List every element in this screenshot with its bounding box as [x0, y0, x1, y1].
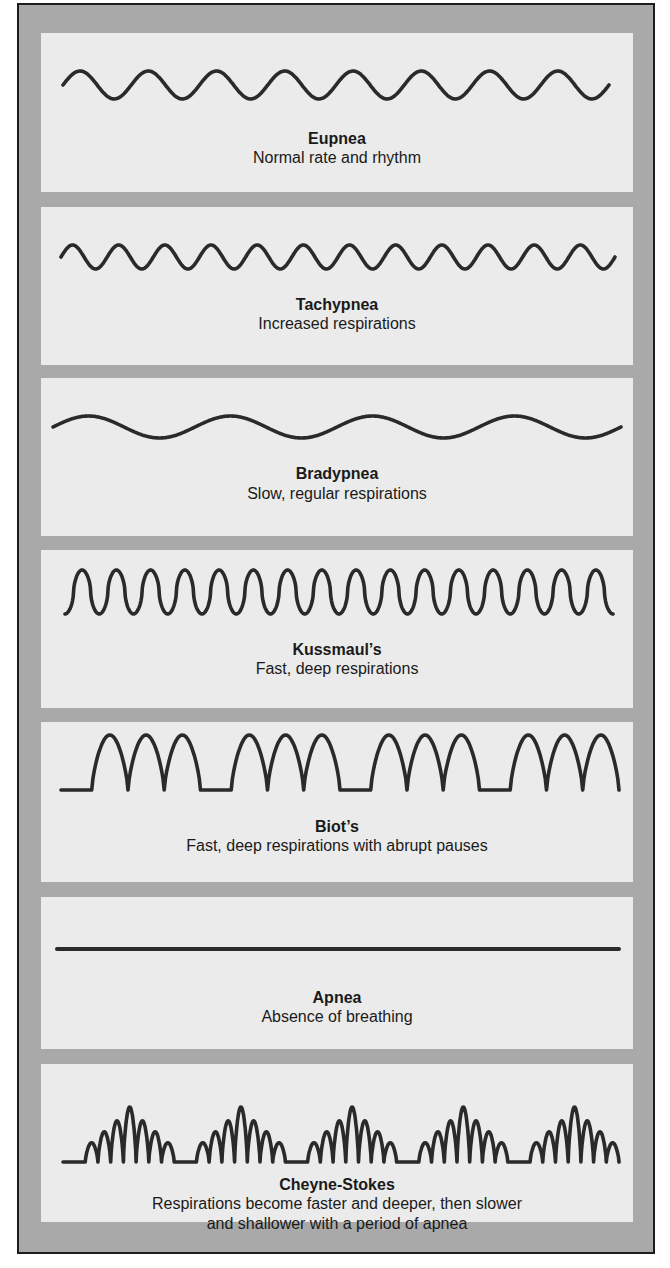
figure-frame: Eupnea Normal rate and rhythm Tachypnea … — [17, 3, 655, 1254]
pattern-title: Apnea — [41, 988, 633, 1007]
pattern-title: Biot’s — [41, 817, 633, 836]
pattern-title: Cheyne-Stokes — [41, 1175, 633, 1194]
panel-biots: Biot’s Fast, deep respirations with abru… — [41, 722, 633, 882]
tachypnea-waveform-icon — [41, 207, 633, 365]
panel-tachypnea: Tachypnea Increased respirations — [41, 207, 633, 365]
panel-cheyne-stokes: Cheyne-Stokes Respirations become faster… — [41, 1064, 633, 1222]
pattern-description: Fast, deep respirations with abrupt paus… — [41, 836, 633, 856]
biots-waveform-icon — [41, 722, 633, 882]
panel-bradypnea: Bradypnea Slow, regular respirations — [41, 378, 633, 536]
pattern-description: Slow, regular respirations — [41, 484, 633, 504]
kussmauls-waveform-icon — [41, 550, 633, 708]
bradypnea-waveform-icon — [41, 378, 633, 536]
pattern-description: Normal rate and rhythm — [41, 148, 633, 168]
pattern-title: Eupnea — [41, 129, 633, 148]
panel-kussmauls: Kussmaul’s Fast, deep respirations — [41, 550, 633, 708]
pattern-title: Tachypnea — [41, 295, 633, 314]
pattern-description: Increased respirations — [41, 314, 633, 334]
pattern-description: Respirations become faster and deeper, t… — [41, 1194, 633, 1234]
panel-eupnea: Eupnea Normal rate and rhythm — [41, 33, 633, 192]
eupnea-waveform-icon — [41, 33, 633, 192]
panel-apnea: Apnea Absence of breathing — [41, 897, 633, 1049]
pattern-description: Absence of breathing — [41, 1007, 633, 1027]
pattern-title: Kussmaul’s — [41, 640, 633, 659]
pattern-title: Bradypnea — [41, 464, 633, 483]
pattern-description: Fast, deep respirations — [41, 659, 633, 679]
